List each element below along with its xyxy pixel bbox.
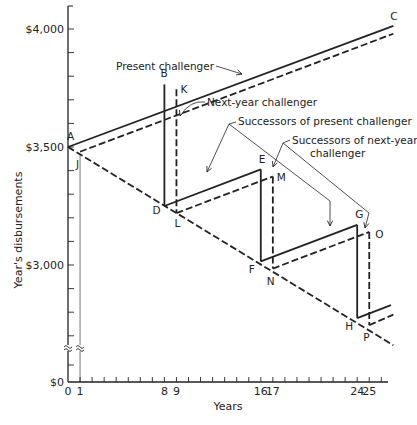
annotation-leader-line: [273, 140, 290, 167]
point-label-c: C: [390, 10, 397, 22]
point-label-d: D: [152, 204, 160, 216]
point-label-p: P: [363, 331, 369, 343]
x-tick-label: 1: [77, 385, 84, 398]
point-label-k: K: [180, 83, 188, 95]
y-tick-label: $3,500: [26, 141, 65, 154]
annotation-present-challenger: Present challenger: [116, 60, 215, 72]
x-tick-label: 8: [161, 385, 168, 398]
point-label-n: N: [267, 275, 275, 287]
point-label-h: H: [345, 320, 353, 332]
point-label-o: O: [375, 228, 383, 240]
y-tick-label: $0: [50, 376, 64, 389]
chart: $4,000$3,500$3,000$0018916172425 ABCDEFG…: [0, 0, 417, 425]
present-challenger-line: [68, 26, 393, 147]
annotation-successors-next-year-line2: challenger: [310, 147, 366, 159]
point-label-j: J: [75, 158, 79, 170]
successors-of-next-year-challenger-line-segment: [273, 232, 369, 269]
x-tick-label: 0: [65, 385, 72, 398]
successors-of-present-challenger-line-segment: [357, 305, 391, 318]
x-tick-label: 25: [362, 385, 376, 398]
x-axis-title: Years: [212, 400, 242, 413]
axis-break-symbol: [64, 346, 72, 349]
x-tick-label: 17: [266, 385, 280, 398]
annotation-successors-present: Successors of present challenger: [238, 115, 412, 127]
point-label-g: G: [355, 208, 363, 220]
point-label-l: L: [174, 217, 180, 229]
axis-break-symbol: [76, 346, 84, 349]
successors-of-present-challenger-line-segment: [164, 169, 260, 206]
x-tick-label: 9: [173, 385, 180, 398]
point-label-a: A: [67, 130, 75, 142]
series-group: [68, 26, 393, 345]
y-axis-title: Year's disbursements: [12, 171, 25, 289]
annotation-leader-line: [207, 122, 236, 172]
point-label-m: M: [277, 171, 286, 183]
successors-of-next-year-challenger-line-segment: [369, 315, 393, 326]
successors-of-next-year-challenger-line-segment: [176, 177, 272, 214]
defender-decline-line: [68, 147, 393, 345]
annotation-successors-next-year: Successors of next-year: [292, 134, 417, 146]
annotations: Present challengerNext-year challengerSu…: [116, 60, 417, 228]
successors-of-present-challenger-line-segment: [261, 225, 357, 262]
y-tick-label: $4,000: [26, 23, 65, 36]
point-label-e: E: [259, 153, 266, 165]
annotation-next-year-challenger: Next-year challenger: [207, 96, 318, 108]
point-label-f: F: [249, 263, 255, 275]
y-tick-label: $3,000: [26, 259, 65, 272]
